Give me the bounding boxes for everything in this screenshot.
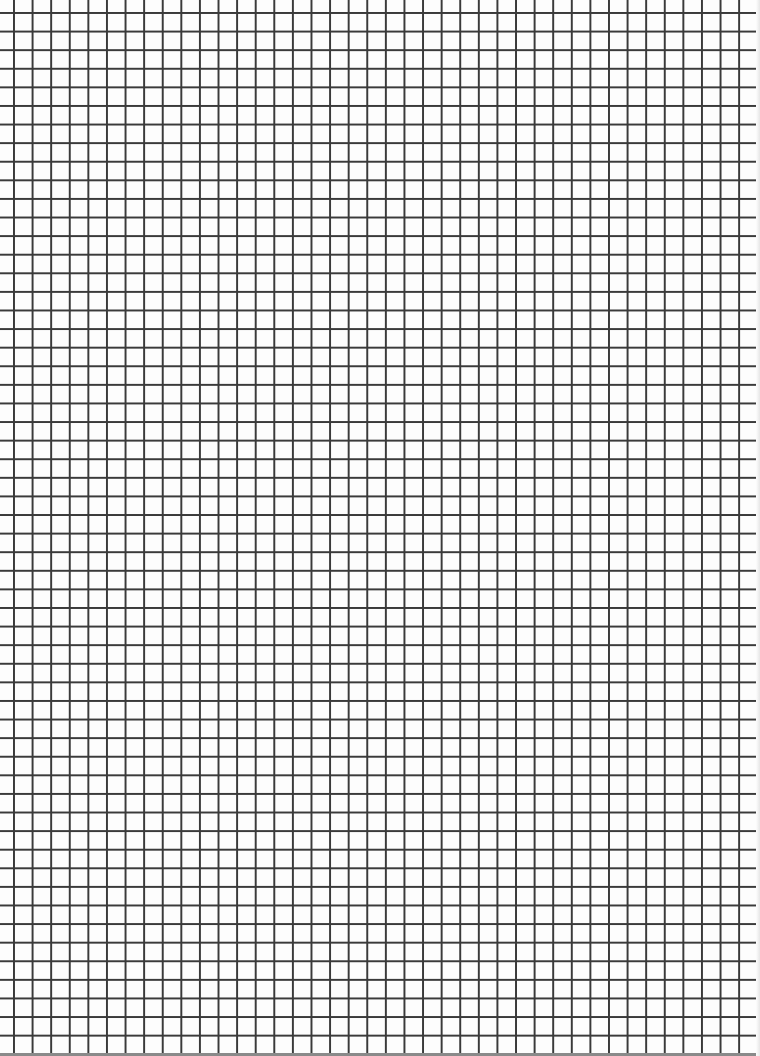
right-edge [756,0,760,1056]
grid-paper-sheet [0,0,760,1056]
